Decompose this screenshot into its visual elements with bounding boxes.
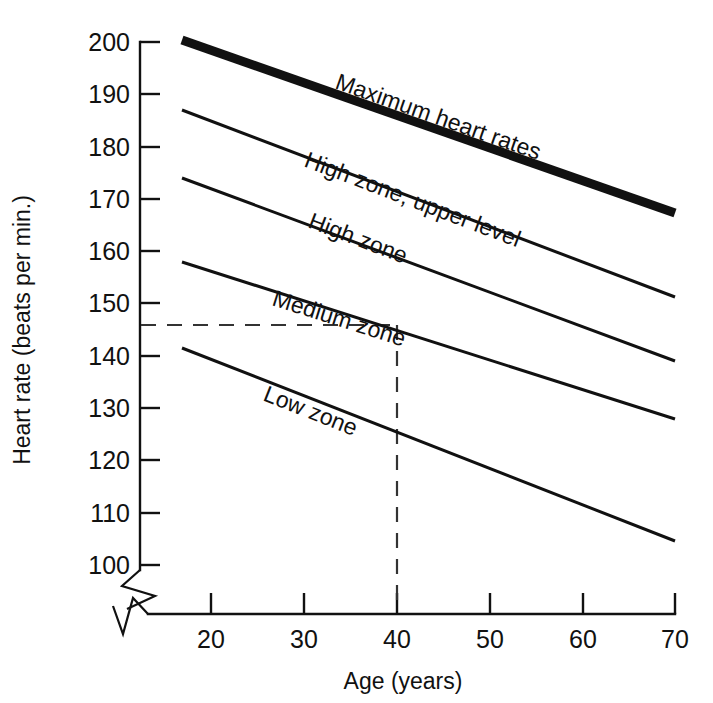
series-line-medium-zone xyxy=(182,262,675,419)
x-tick-label-60: 60 xyxy=(569,625,597,653)
y-tick-label-160: 160 xyxy=(88,237,130,265)
y-axis-tick-labels: 200 190 180 170 160 150 140 130 120 110 … xyxy=(88,28,130,579)
x-axis-title: Age (years) xyxy=(344,668,463,694)
y-tick-label-130: 130 xyxy=(88,394,130,422)
series-labels: Maximum heart rates High zone, upper lev… xyxy=(260,68,544,441)
x-axis-ticks xyxy=(211,593,675,614)
y-tick-label-120: 120 xyxy=(88,446,130,474)
y-tick-label-190: 190 xyxy=(88,80,130,108)
y-tick-label-100: 100 xyxy=(88,551,130,579)
y-tick-label-150: 150 xyxy=(88,289,130,317)
x-tick-label-70: 70 xyxy=(661,625,689,653)
series-label-high-zone: High zone xyxy=(305,207,411,268)
y-axis-title: Heart rate (beats per min.) xyxy=(9,195,35,465)
series-label-maximum-heart-rates: Maximum heart rates xyxy=(332,68,544,165)
series-label-low-zone: Low zone xyxy=(260,380,361,440)
series-line-low-zone xyxy=(182,348,675,541)
y-tick-label-110: 110 xyxy=(90,499,130,527)
reference-guides xyxy=(141,325,397,600)
x-axis-tick-labels: 20 30 40 50 60 70 xyxy=(197,625,689,653)
y-tick-label-200: 200 xyxy=(88,28,130,56)
y-tick-label-180: 180 xyxy=(88,133,130,161)
series-label-medium-zone: Medium zone xyxy=(269,285,409,351)
y-tick-label-140: 140 xyxy=(88,342,130,370)
x-tick-label-40: 40 xyxy=(383,625,411,653)
y-axis: 200 190 180 170 160 150 140 130 120 110 … xyxy=(88,28,160,609)
chart-canvas: 200 190 180 170 160 150 140 130 120 110 … xyxy=(0,0,713,703)
x-tick-label-50: 50 xyxy=(476,625,504,653)
y-axis-ticks xyxy=(140,42,160,565)
x-axis: 20 30 40 50 60 70 xyxy=(113,593,689,653)
heart-rate-zones-chart: 200 190 180 170 160 150 140 130 120 110 … xyxy=(0,0,713,703)
y-tick-label-170: 170 xyxy=(88,185,130,213)
x-tick-label-20: 20 xyxy=(197,625,225,653)
x-axis-break-icon xyxy=(113,598,148,634)
x-tick-label-30: 30 xyxy=(290,625,318,653)
